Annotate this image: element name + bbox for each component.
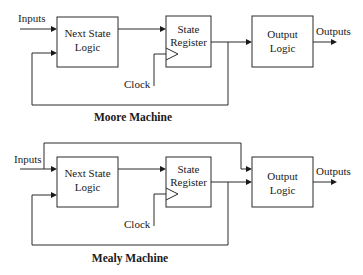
mealy-output-logic-arrow-icon xyxy=(246,179,252,185)
moore-state-register-line1: State xyxy=(178,23,200,35)
mealy-next-state-logic-line2: Logic xyxy=(75,181,101,193)
mealy-outputs-arrow-icon xyxy=(331,179,337,185)
mealy-outputs-label: Outputs xyxy=(316,165,351,177)
moore-output-logic-line1: Output xyxy=(267,28,298,40)
mealy-bypass-arrow-icon xyxy=(246,166,252,172)
mealy-state-register-line2: Register xyxy=(170,176,207,188)
mealy-feedback-arrow-icon xyxy=(51,192,57,198)
moore-feedback-arrow-icon xyxy=(51,50,57,56)
moore-outputs-arrow-icon xyxy=(331,39,337,45)
mealy-machine: Inputs Next State Logic State Register C… xyxy=(14,143,351,265)
moore-next-state-logic-line1: Next State xyxy=(64,27,110,39)
mealy-inputs-label: Inputs xyxy=(14,153,42,165)
moore-register-input-arrow-icon xyxy=(160,26,166,32)
moore-clock-label: Clock xyxy=(124,78,151,90)
mealy-state-register-line1: State xyxy=(178,163,200,175)
moore-inputs-label: Inputs xyxy=(18,12,46,24)
fsm-diagram: Inputs Next State Logic State Register C… xyxy=(0,0,363,275)
moore-output-logic-arrow-icon xyxy=(246,39,252,45)
mealy-clock-label: Clock xyxy=(124,218,151,230)
mealy-output-logic-line2: Logic xyxy=(270,184,296,196)
moore-clock-wire xyxy=(154,54,166,86)
mealy-clock-wire xyxy=(154,194,166,226)
moore-output-logic-line2: Logic xyxy=(270,42,296,54)
moore-caption: Moore Machine xyxy=(94,111,172,123)
moore-next-state-logic-line2: Logic xyxy=(75,41,101,53)
moore-outputs-label: Outputs xyxy=(316,25,351,37)
mealy-caption: Mealy Machine xyxy=(92,252,168,265)
mealy-output-logic-box xyxy=(252,157,313,207)
moore-state-register-line2: Register xyxy=(170,36,207,48)
mealy-register-input-arrow-icon xyxy=(160,166,166,172)
mealy-next-state-logic-line1: Next State xyxy=(64,167,110,179)
moore-machine: Inputs Next State Logic State Register C… xyxy=(18,12,351,123)
mealy-output-logic-line1: Output xyxy=(267,170,298,182)
mealy-inputs-arrow-icon xyxy=(51,166,57,172)
moore-inputs-arrow-icon xyxy=(51,26,57,32)
